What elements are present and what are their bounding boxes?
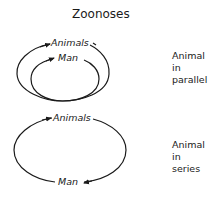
caption-line: in [172, 151, 205, 163]
series-cycle: Animals Man [14, 112, 126, 187]
outer-label-animals: Animals [50, 37, 89, 48]
inner-label-man: Man [58, 52, 78, 63]
caption-line: parallel [172, 74, 207, 86]
caption-line: Animal [172, 139, 205, 151]
outer-loop-tail [93, 43, 96, 45]
inner-loop-arc [31, 59, 99, 101]
series-left-arc [14, 118, 55, 182]
parallel-cycle: Animals Man [17, 37, 109, 101]
outer-loop-arrow [40, 44, 50, 47]
series-label-animals: Animals [52, 112, 91, 123]
caption-line: series [172, 163, 205, 175]
diagram-title: Zoonoses [72, 7, 130, 21]
caption-line: Animal [172, 50, 207, 62]
series-label-man: Man [58, 176, 78, 187]
parallel-caption: Animal in parallel [172, 50, 207, 86]
caption-line: in [172, 62, 207, 74]
series-caption: Animal in series [172, 139, 205, 175]
series-right-arc [84, 119, 126, 182]
